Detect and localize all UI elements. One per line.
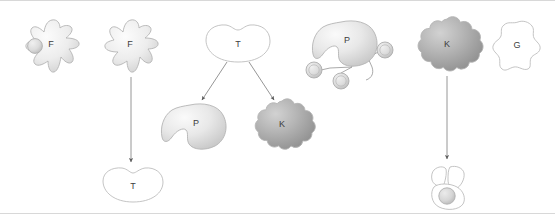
arrow-t-to-k xyxy=(249,62,274,100)
node-f-cell-engulfing[interactable]: F xyxy=(26,20,79,72)
node-target-cell-lysed[interactable] xyxy=(432,166,465,209)
cell-diagram-canvas: F F T T P xyxy=(0,0,555,214)
node-p-cell-antibody[interactable]: P xyxy=(306,21,393,89)
arrow-t-to-k-line xyxy=(249,62,274,100)
arrow-t-to-p-line xyxy=(202,62,227,100)
target-cell-nucleus-icon xyxy=(439,188,455,204)
node-t-cell-top[interactable]: T xyxy=(206,25,270,62)
engulfed-particle-icon xyxy=(28,39,43,54)
p-cell-antibody-body xyxy=(312,21,377,66)
node-k-cell-right[interactable]: K xyxy=(418,17,483,71)
node-f-cell-plain[interactable]: F xyxy=(105,20,158,72)
node-g-cell[interactable]: G xyxy=(493,21,540,70)
p-cell-lower-body xyxy=(161,104,226,149)
k-cell-lower-body xyxy=(255,99,315,149)
diagram-svg: F F T T P xyxy=(0,1,555,214)
antibody-particle-bottom xyxy=(333,73,349,89)
g-cell-body xyxy=(493,21,540,70)
antibody-particle-right xyxy=(377,42,393,58)
k-cell-right-body xyxy=(418,17,483,71)
node-p-cell-lower[interactable]: P xyxy=(161,104,226,149)
t-cell-bottom-body xyxy=(103,168,163,202)
node-k-cell-lower[interactable]: K xyxy=(255,99,315,149)
antibody-particle-left xyxy=(306,62,322,78)
node-t-cell-bottom[interactable]: T xyxy=(103,168,163,202)
arrow-t-to-p xyxy=(202,62,227,100)
f-cell-plain-body xyxy=(105,20,158,72)
t-cell-top-body xyxy=(206,25,270,62)
